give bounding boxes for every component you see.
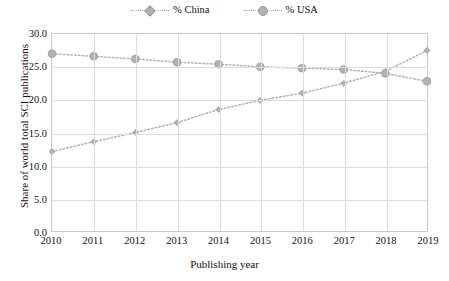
gridline-vertical [387, 34, 388, 231]
gridline-vertical [303, 34, 304, 231]
gridline-vertical [345, 34, 346, 231]
data-point-marker[interactable] [381, 69, 389, 77]
legend-item-china[interactable]: % China [131, 5, 209, 16]
data-point-marker[interactable] [49, 148, 55, 154]
diamond-marker-icon [144, 5, 155, 16]
line-chart: % China % USA 0.05.010.015.020.025.030.0… [0, 0, 449, 281]
legend-label-usa: % USA [286, 5, 318, 16]
plot-area [51, 33, 428, 232]
data-point-marker[interactable] [423, 77, 431, 85]
x-axis-tick-label: 2019 [418, 235, 439, 246]
gridline-vertical [178, 34, 179, 231]
x-axis-tick-label: 2012 [124, 235, 145, 246]
legend-marker-usa [244, 5, 282, 16]
gridline-horizontal [52, 134, 427, 135]
legend-label-china: % China [173, 5, 209, 16]
gridline-vertical [94, 34, 95, 231]
legend-marker-china [131, 5, 169, 16]
x-axis-tick-label: 2015 [250, 235, 271, 246]
legend-item-usa[interactable]: % USA [244, 5, 318, 16]
x-axis-tick-label: 2018 [376, 235, 397, 246]
gridline-vertical [220, 34, 221, 231]
y-axis-title: Share of world total SCI publications [18, 16, 30, 236]
x-axis-tick-label: 2010 [41, 235, 62, 246]
gridline-vertical [136, 34, 137, 231]
series-layer [52, 34, 427, 231]
x-axis-tick-label: 2011 [83, 235, 104, 246]
chart-legend: % China % USA [0, 5, 449, 16]
data-point-marker[interactable] [424, 47, 430, 53]
gridline-horizontal [52, 100, 427, 101]
x-axis-title: Publishing year [0, 258, 449, 270]
circle-marker-icon [258, 6, 268, 16]
x-axis-tick-label: 2014 [208, 235, 229, 246]
x-axis-tick-label: 2017 [334, 235, 355, 246]
x-axis-tick-labels: 2010201120122013201420152016201720182019 [51, 235, 428, 251]
x-axis-tick-label: 2013 [166, 235, 187, 246]
gridline-horizontal [52, 67, 427, 68]
gridline-horizontal [52, 200, 427, 201]
gridline-vertical [261, 34, 262, 231]
x-axis-tick-label: 2016 [292, 235, 313, 246]
gridline-horizontal [52, 167, 427, 168]
data-point-marker[interactable] [48, 50, 56, 58]
